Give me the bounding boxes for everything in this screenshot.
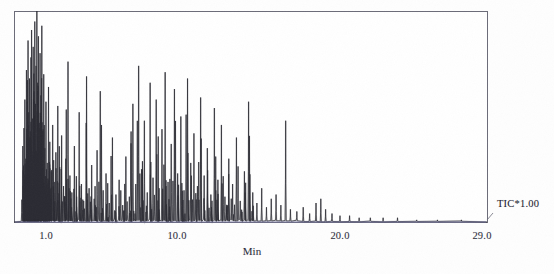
x-axis-title: Min [243, 245, 261, 257]
x-axis-tick-label: 10.0 [167, 230, 186, 241]
chromatogram-figure: 1.0 10.0 20.0 29.0 Min TIC*1.00 [0, 0, 554, 274]
x-axis-tick-label: 1.0 [39, 230, 53, 241]
chromatogram-plot [0, 0, 554, 274]
x-axis-tick-label: 29.0 [472, 230, 491, 241]
x-axis-tick-label: 20.0 [330, 230, 349, 241]
series-legend-label: TIC*1.00 [497, 198, 539, 209]
